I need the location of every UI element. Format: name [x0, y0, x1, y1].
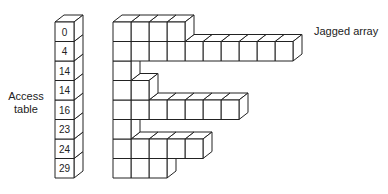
- jagged-array-cell: [113, 100, 131, 120]
- jagged-array-cell: [131, 100, 149, 120]
- access-table-value: 16: [59, 105, 71, 116]
- access-table-value: 4: [62, 46, 68, 57]
- jagged-array-diagram: 04141416232429: [0, 0, 388, 194]
- jagged-array-cell: [149, 100, 167, 120]
- jagged-array-cell: [203, 42, 221, 62]
- access-table-value: 24: [59, 144, 71, 155]
- jagged-array-cell: [113, 42, 131, 62]
- jagged-array-cell: [167, 42, 185, 62]
- jagged-array-cell: [149, 159, 167, 179]
- jagged-array-cell: [131, 22, 149, 42]
- jagged-array-cell: [257, 42, 275, 62]
- jagged-array-cell: [167, 22, 185, 42]
- jagged-array-cell: [131, 159, 149, 179]
- jagged-array-cell: [113, 61, 131, 81]
- jagged-array-cell: [185, 100, 203, 120]
- jagged-array-cell: [167, 139, 185, 159]
- jagged-array-cell: [221, 42, 239, 62]
- jagged-array-cell: [113, 139, 131, 159]
- jagged-array-cell: [167, 100, 185, 120]
- jagged-array-cell: [149, 22, 167, 42]
- jagged-array-cell: [113, 120, 131, 140]
- access-table-value: 14: [59, 66, 71, 77]
- jagged-array-cell: [113, 81, 131, 101]
- jagged-array-cell: [113, 159, 131, 179]
- access-table-value: 29: [59, 163, 71, 174]
- jagged-array-cell: [149, 139, 167, 159]
- access-table-value: 0: [62, 27, 68, 38]
- access-table-value: 14: [59, 85, 71, 96]
- jagged-array-cell: [149, 42, 167, 62]
- jagged-array-cell: [185, 42, 203, 62]
- access-table-value: 23: [59, 124, 71, 135]
- jagged-array-cell: [275, 42, 293, 62]
- jagged-array-cell: [185, 139, 203, 159]
- jagged-array-cell: [221, 100, 239, 120]
- jagged-array-cell: [239, 42, 257, 62]
- jagged-array-cell: [113, 22, 131, 42]
- jagged-array-cell: [131, 81, 149, 101]
- jagged-array-cell: [203, 100, 221, 120]
- jagged-array-cell: [131, 139, 149, 159]
- jagged-array-cell: [131, 42, 149, 62]
